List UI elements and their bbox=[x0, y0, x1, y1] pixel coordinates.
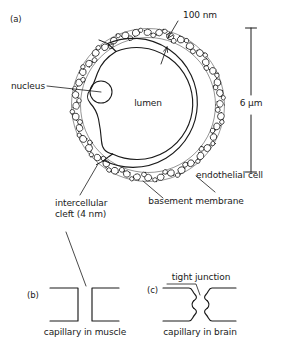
panel-c-tag: (c) bbox=[147, 285, 158, 296]
intercellular-cleft-label-line2: cleft (4 nm) bbox=[55, 209, 106, 220]
scale-bar-label: 6 μm bbox=[240, 98, 263, 109]
tight-junction-label: tight junction bbox=[172, 272, 231, 283]
intercellular-cleft-leader-line bbox=[80, 164, 98, 195]
lumen-label: lumen bbox=[134, 98, 162, 109]
panel-b-cleft-leader-line bbox=[66, 232, 86, 286]
membrane-thickness-label: 100 nm bbox=[183, 10, 217, 21]
panel-a-tag: (a) bbox=[10, 14, 22, 25]
nucleus-label: nucleus bbox=[11, 81, 45, 92]
intercellular-cleft-label-line1: intercellular bbox=[55, 198, 107, 209]
panel-b-tag: (b) bbox=[27, 290, 39, 301]
capillary-in-muscle-caption: capillary in muscle bbox=[44, 327, 126, 338]
tight-junction-leader-line bbox=[167, 284, 200, 295]
endothelial-cell-label: endothelial cell bbox=[196, 170, 263, 181]
capillary-in-brain-caption: capillary in brain bbox=[163, 327, 236, 338]
panel-b-muscle-cleft bbox=[50, 288, 119, 321]
basement-membrane-label: basement membrane bbox=[148, 196, 243, 207]
membrane-thickness-arrow bbox=[168, 21, 178, 38]
